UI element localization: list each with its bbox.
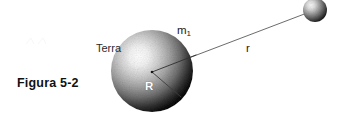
- label-terra: Terra: [96, 42, 121, 54]
- scan-artifact: [26, 38, 46, 44]
- label-mass-m1: m1: [177, 24, 191, 36]
- label-mass-subscript: 1: [187, 29, 191, 38]
- figure-caption: Figura 5-2: [17, 76, 79, 90]
- label-distance-r: r: [246, 42, 250, 54]
- earth-center-vertex: [151, 71, 154, 74]
- figure-container: Figura 5-2 Terra m1 r R: [0, 0, 348, 128]
- figure-diagram-canvas: [0, 0, 348, 128]
- satellite-sphere: [303, 0, 327, 22]
- label-mass-symbol: m: [177, 24, 187, 36]
- label-radius-R: R: [145, 80, 153, 92]
